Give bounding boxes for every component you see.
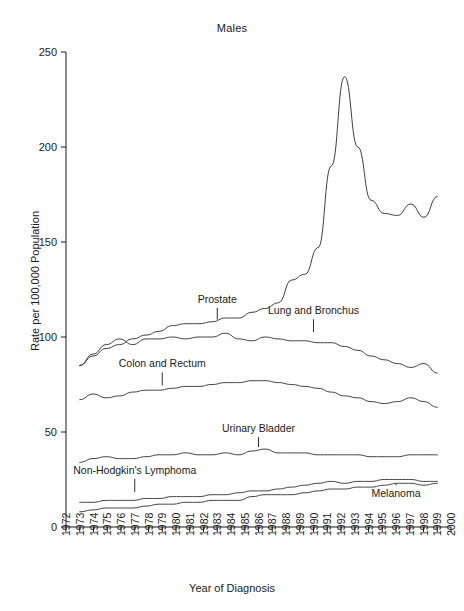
x-tick-label: 1983 bbox=[211, 512, 223, 536]
line-chart-plot: 050100150200250 197219731974197519761977… bbox=[0, 0, 464, 611]
x-tick-label: 1973 bbox=[74, 512, 86, 536]
x-tick-label: 1990 bbox=[308, 512, 320, 536]
y-tick-label: 100 bbox=[39, 331, 57, 343]
x-axis-label: Year of Diagnosis bbox=[0, 582, 464, 594]
y-tick-label: 0 bbox=[51, 521, 57, 533]
x-tick-label: 1986 bbox=[253, 512, 265, 536]
y-tick-label: 50 bbox=[45, 426, 57, 438]
x-tick-label: 1979 bbox=[156, 512, 168, 536]
annotation-label-non-hodgkin-s-lymphoma: Non-Hodgkin's Lymphoma bbox=[73, 464, 196, 476]
y-tick-label: 200 bbox=[39, 141, 57, 153]
x-tick-label: 1992 bbox=[335, 512, 347, 536]
chart-title: Males bbox=[0, 22, 464, 34]
series-annotations: ProstateLung and BronchusColon and Rectu… bbox=[73, 293, 420, 499]
x-tick-label: 1997 bbox=[404, 512, 416, 536]
x-tick-label: 1977 bbox=[129, 512, 141, 536]
x-tick-label: 1975 bbox=[101, 512, 113, 536]
x-tick-label: 1981 bbox=[184, 512, 196, 536]
x-tick-label: 2000 bbox=[445, 512, 457, 536]
y-tick-label: 250 bbox=[39, 46, 57, 58]
x-tick-label: 1972 bbox=[60, 512, 72, 536]
chart-figure: Males Rate per 100,000 Population Year o… bbox=[0, 0, 464, 611]
y-axis: 050100150200250 bbox=[39, 46, 66, 533]
x-tick-label: 1994 bbox=[363, 512, 375, 536]
x-tick-label: 1999 bbox=[431, 512, 443, 536]
x-tick-label: 1996 bbox=[390, 512, 402, 536]
x-tick-label: 1982 bbox=[198, 512, 210, 536]
x-tick-label: 1998 bbox=[418, 512, 430, 536]
annotation-label-melanoma: Melanoma bbox=[371, 487, 420, 499]
y-tick-label: 150 bbox=[39, 236, 57, 248]
series-line-colon-and-rectum bbox=[80, 381, 438, 408]
annotation-label-urinary-bladder: Urinary Bladder bbox=[222, 422, 295, 434]
annotation-label-prostate: Prostate bbox=[198, 293, 237, 305]
x-tick-label: 1989 bbox=[294, 512, 306, 536]
x-tick-label: 1974 bbox=[88, 512, 100, 536]
x-tick-label: 1980 bbox=[170, 512, 182, 536]
annotation-label-lung-and-bronchus: Lung and Bronchus bbox=[268, 304, 359, 316]
annotation-label-colon-and-rectum: Colon and Rectum bbox=[119, 357, 206, 369]
x-axis: 1972197319741975197619771978197919801981… bbox=[60, 512, 457, 536]
series-line-prostate bbox=[80, 77, 438, 366]
x-tick-label: 1995 bbox=[376, 512, 388, 536]
x-tick-label: 1991 bbox=[321, 512, 333, 536]
x-tick-label: 1987 bbox=[266, 512, 278, 536]
y-axis-label: Rate per 100,000 Population bbox=[29, 161, 41, 401]
x-tick-label: 1993 bbox=[349, 512, 361, 536]
x-tick-label: 1988 bbox=[280, 512, 292, 536]
x-tick-label: 1978 bbox=[143, 512, 155, 536]
x-tick-label: 1976 bbox=[115, 512, 127, 536]
x-tick-label: 1985 bbox=[239, 512, 251, 536]
series-line-urinary-bladder bbox=[80, 449, 438, 462]
x-tick-label: 1984 bbox=[225, 512, 237, 536]
